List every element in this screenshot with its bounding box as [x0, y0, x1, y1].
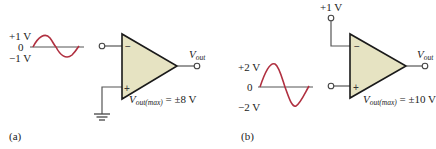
reference-terminal [328, 15, 334, 21]
output-terminal-a [194, 63, 200, 69]
caption-a: (a) [9, 130, 22, 143]
zero-label-b: 0 [247, 81, 253, 93]
reference-wire [331, 21, 350, 46]
pos-peak-label-b: +2 V [238, 61, 260, 73]
vmax-spec-a: Vout(max) = ±8 V [129, 93, 197, 107]
noninverting-sign-b: + [353, 82, 359, 93]
vout-label-a: Vout [189, 48, 206, 62]
neg-peak-label-b: −2 V [238, 101, 260, 113]
vmax-spec-b: Vout(max) = ±10 V [363, 93, 436, 107]
input-terminal-b [328, 83, 334, 89]
caption-b: (b) [241, 130, 254, 143]
vout-label-b: Vout [417, 48, 434, 62]
input-waveform-b: +2 V 0 −2 V [238, 61, 313, 113]
input-waveform-a: +1 V 0 −1 V [9, 30, 84, 64]
input-terminal-a [99, 43, 105, 49]
comparator-diagram: +1 V 0 −1 V − + Vout Vout(max) = ±8 V (a… [0, 0, 436, 149]
reference-voltage-label: +1 V [320, 1, 342, 13]
sine-wave-b [260, 64, 309, 107]
ground-wire-a [102, 87, 122, 114]
neg-peak-label-a: −1 V [9, 52, 31, 64]
ground-icon [94, 114, 110, 120]
output-terminal-b [422, 63, 428, 69]
inverting-sign-a: − [125, 41, 131, 52]
inverting-sign-b: − [354, 41, 360, 52]
sine-wave-a [33, 35, 79, 57]
circuit-a: +1 V 0 −1 V − + Vout Vout(max) = ±8 V (a… [9, 30, 206, 143]
circuit-b: +2 V 0 −2 V +1 V − + Vout Vout(max) = ±1… [238, 1, 436, 143]
